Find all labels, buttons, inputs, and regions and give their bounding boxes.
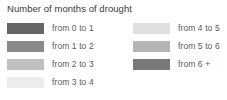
legend-color-swatch: [7, 77, 44, 88]
legend-color-swatch: [133, 23, 170, 34]
legend-color-swatch: [133, 59, 170, 70]
legend-item-label: from 3 to 4: [52, 76, 94, 88]
legend-color-swatch: [7, 23, 44, 34]
legend-item-label: from 1 to 2: [52, 40, 94, 52]
legend-item-label: from 5 to 6: [178, 40, 220, 52]
legend-item-label: from 4 to 5: [178, 22, 220, 34]
legend-item-label: from 6 +: [178, 58, 210, 70]
legend-item-label: from 0 to 1: [52, 22, 94, 34]
legend-color-swatch: [7, 41, 44, 52]
legend-color-swatch: [7, 59, 44, 70]
legend-title: Number of months of drought: [7, 3, 132, 15]
map-legend: Number of months of drought from 0 to 1 …: [0, 0, 227, 100]
legend-color-swatch: [133, 41, 170, 52]
legend-item-label: from 2 to 3: [52, 58, 94, 70]
